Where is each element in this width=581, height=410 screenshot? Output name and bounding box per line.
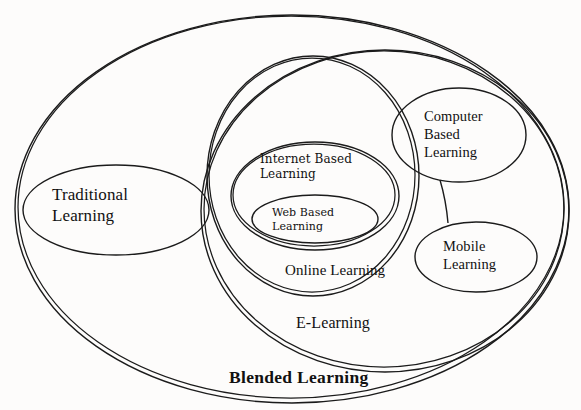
label-blended-learning: Blended Learning [229, 367, 368, 389]
label-online-learning: Online Learning [285, 261, 385, 280]
blended-learning-diagram: Blended Learning Traditional Learning E-… [0, 0, 581, 410]
connector-computer-to-mobile [440, 180, 448, 223]
label-e-learning: E-Learning [296, 313, 370, 333]
label-internet-based-learning: Internet Based Learning [260, 152, 352, 182]
label-traditional-learning: Traditional Learning [52, 184, 128, 226]
label-mobile-learning: Mobile Learning [443, 238, 496, 274]
label-web-based-learning: Web Based Learning [272, 206, 334, 233]
label-computer-based-learning: Computer Based Learning [424, 108, 483, 162]
